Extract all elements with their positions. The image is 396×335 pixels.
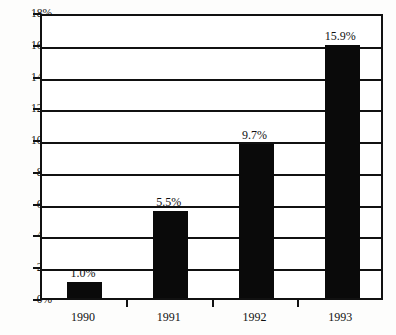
bar-chart: 0%2%4%6%8%10%12%14%16%18% 1.0%5.5%9.7%15… [0, 0, 396, 335]
plot-area [40, 14, 383, 300]
bar-value-label-1990: 1.0% [48, 267, 118, 279]
bar-value-label-1991: 5.5% [134, 196, 204, 208]
x-axis-tick-label-1992: 1992 [219, 311, 289, 323]
bar-1993 [325, 45, 360, 298]
x-axis-tick-label-1993: 1993 [305, 311, 375, 323]
x-axis-tick-label-1990: 1990 [48, 311, 118, 323]
bar-value-label-1992: 9.7% [219, 129, 289, 141]
bar-1990 [67, 282, 102, 298]
bar-1991 [153, 211, 188, 298]
x-axis-tick-label-1991: 1991 [134, 311, 204, 323]
x-axis-tick-mark [212, 299, 214, 307]
x-axis-tick-mark [297, 299, 299, 307]
bar-value-label-1993: 15.9% [305, 30, 375, 42]
x-axis-tick-mark [126, 299, 128, 307]
bar-1992 [239, 144, 274, 298]
